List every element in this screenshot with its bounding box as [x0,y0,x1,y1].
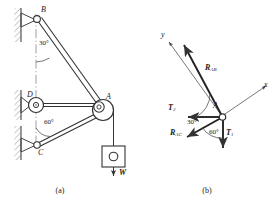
hatched-wall-bottom [15,126,22,160]
mechanics-figure: B D A C 30° 60° W (a) [0,0,275,210]
force-label-t1: T1 [226,128,233,137]
force-label-t2: T2 [168,103,175,112]
pin-support-b [21,13,40,27]
weight-block-icon [102,146,125,167]
label-load-w: W [119,168,126,177]
caption-a: (a) [40,186,80,195]
hatched-wall-middle [15,90,22,120]
pin-node-icon [219,114,225,120]
panel-a-drawing [0,0,140,195]
pivot-d [21,97,44,113]
angle-label-60-b: 60° [209,128,219,136]
pulley-icon [93,100,114,121]
label-point-d: D [27,90,33,99]
axis-label-y: y [161,30,165,39]
force-label-rac: RAC [170,128,182,137]
axis-x [222,86,266,116]
angle-label-30-a: 30° [39,39,49,47]
axis-label-x: x [264,80,268,89]
angle-label-60-a: 60° [44,118,54,126]
force-label-rab: RAB [205,63,216,72]
caption-b: (b) [187,186,227,195]
angle-arc-60 [36,128,51,137]
label-point-a: A [106,92,111,101]
label-point-c: C [38,148,43,157]
label-point-b: B [41,5,46,14]
angle-label-30-b: 30° [187,118,197,126]
angle-arc-30-b [196,94,210,118]
member-da [36,104,98,107]
label-point-a-b: A [213,101,218,110]
member-ba [38,18,102,105]
angle-arc-30 [36,58,50,62]
hatched-wall-top [15,8,22,42]
